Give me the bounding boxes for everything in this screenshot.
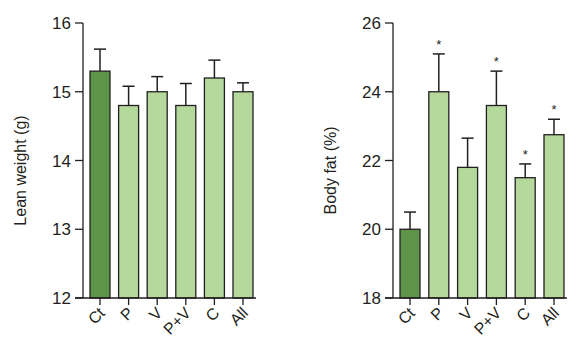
y-tick-label: 14 xyxy=(52,152,71,171)
bar-rect xyxy=(486,106,506,299)
x-tick-label: V xyxy=(146,304,166,324)
bar-v xyxy=(147,77,167,298)
y-tick-label: 26 xyxy=(362,14,381,33)
x-tick-label: P+V xyxy=(471,304,505,338)
x-tick-label: All xyxy=(538,304,563,329)
bar-rect xyxy=(147,92,167,298)
bar-ct xyxy=(400,212,420,298)
significance-marker: * xyxy=(494,54,499,69)
x-tick-label: V xyxy=(456,304,476,324)
x-tick-label: C xyxy=(513,304,533,324)
y-tick-label: 24 xyxy=(362,83,381,102)
significance-marker: * xyxy=(523,147,528,162)
y-axis-title: Lean weight (g) xyxy=(12,115,29,225)
y-tick-label: 16 xyxy=(52,14,71,33)
y-tick-label: 22 xyxy=(362,152,381,171)
x-tick-label: C xyxy=(202,304,222,324)
bar-p: * xyxy=(429,37,449,298)
x-tick-label: P xyxy=(427,304,447,324)
figure: CtPVP+VCAll1213141516Lean weight (g) Ct*… xyxy=(0,0,577,361)
x-tick-label: All xyxy=(227,304,252,329)
bar-rect xyxy=(233,92,253,298)
y-tick-label: 20 xyxy=(362,220,381,239)
bar-p xyxy=(119,86,139,298)
bar-p-plus-v xyxy=(176,84,196,299)
significance-marker: * xyxy=(436,37,441,52)
y-tick-label: 13 xyxy=(52,220,71,239)
bar-rect xyxy=(176,106,196,299)
bar-c: * xyxy=(515,147,535,298)
bar-rect xyxy=(119,106,139,299)
bar-rect xyxy=(515,178,535,298)
y-tick-label: 15 xyxy=(52,83,71,102)
bar-ct xyxy=(90,49,110,298)
significance-marker: * xyxy=(551,102,556,117)
y-tick-label: 18 xyxy=(362,289,381,308)
y-axis-title: Body fat (%) xyxy=(322,126,339,214)
x-tick-label: P xyxy=(117,304,137,324)
body-fat-chart: Ct*PV*P+V*C*All1820222426Body fat (%) xyxy=(322,14,567,338)
bar-rect xyxy=(400,229,420,298)
bar-rect xyxy=(90,71,110,298)
bar-rect xyxy=(429,92,449,298)
x-tick-label: Ct xyxy=(395,304,419,328)
bar-rect xyxy=(458,167,478,298)
bar-rect xyxy=(544,135,564,298)
bar-p-plus-v: * xyxy=(486,54,506,298)
x-tick-label: Ct xyxy=(85,304,109,328)
bar-all xyxy=(233,83,253,298)
bar-all: * xyxy=(544,102,564,298)
bar-c xyxy=(204,60,224,298)
x-tick-label: P+V xyxy=(160,304,194,338)
bar-v xyxy=(458,138,478,298)
lean-weight-chart: CtPVP+VCAll1213141516Lean weight (g) xyxy=(12,14,256,338)
bar-rect xyxy=(204,78,224,298)
y-tick-label: 12 xyxy=(52,289,71,308)
